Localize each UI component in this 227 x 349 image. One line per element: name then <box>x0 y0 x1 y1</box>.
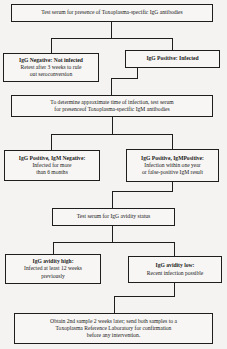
igg-pos-igm-neg-line: than 6 months <box>36 169 68 176</box>
igg-positive-heading: IgG Positive: Infected <box>146 55 198 62</box>
connector <box>112 226 113 242</box>
connector <box>172 38 173 50</box>
connector <box>174 242 175 256</box>
connector <box>114 296 115 313</box>
step-test-igg-text: Test serum for presence of Toxoplasma-sp… <box>41 9 183 16</box>
avidity-low-heading: IgG avidity low: <box>156 262 195 269</box>
connector <box>111 22 112 38</box>
connector <box>112 191 113 208</box>
step-test-igg-box: Test serum for presence of Toxoplasma-sp… <box>11 4 213 22</box>
final-step-line: before any intervention. <box>87 332 141 339</box>
connector <box>112 191 173 192</box>
connector <box>51 38 173 39</box>
igg-pos-igm-neg-heading: IgG Positive, IgM Negative: <box>19 155 86 162</box>
connector <box>172 182 173 191</box>
connector <box>53 242 54 254</box>
avidity-high-line: Infected at least 12 weeks <box>24 265 82 272</box>
final-step-line: Obtain 2nd sample 2 weeks later; send bo… <box>50 318 177 325</box>
connector <box>53 242 175 243</box>
step-avidity-text: Test serum for IgG avidity status <box>77 213 150 220</box>
connector <box>112 117 113 134</box>
final-step-box: Obtain 2nd sample 2 weeks later; send bo… <box>14 313 213 344</box>
connector <box>51 38 52 53</box>
igg-pos-igm-pos-line: or false-positive IgM result <box>142 169 203 176</box>
igg-positive-box: IgG Positive: Infected <box>125 50 220 68</box>
connector <box>51 134 52 150</box>
igg-pos-igm-pos-box: IgG Positive, IgMPositive: Infection wit… <box>126 149 219 182</box>
igg-negative-line: Retest after 3 weeks to rule <box>20 64 81 71</box>
connector <box>174 283 175 296</box>
avidity-high-line: previously <box>41 273 65 280</box>
step-test-igm-line: To determine approximate time of infecti… <box>50 99 173 106</box>
igg-negative-line: out seroconversion <box>30 71 72 78</box>
step-test-igm-line: for presenceof Toxoplasma-specific IgM a… <box>54 106 169 113</box>
igg-pos-igm-neg-line: Infected for more <box>32 162 71 169</box>
step-avidity-box: Test serum for IgG avidity status <box>52 208 175 226</box>
igg-negative-box: IgG Negative: Not infected Retest after … <box>3 53 99 82</box>
connector <box>137 68 138 78</box>
avidity-low-line: Recent infection possible <box>147 270 204 277</box>
step-test-igm-box: To determine approximate time of infecti… <box>11 95 213 117</box>
avidity-high-box: IgG avidity high: Infected at least 12 w… <box>5 254 101 284</box>
connector <box>172 134 173 149</box>
igg-pos-igm-pos-heading: IgG Positive, IgMPositive: <box>141 155 204 162</box>
igg-pos-igm-pos-line: Infection within one year <box>144 162 200 169</box>
igg-pos-igm-neg-box: IgG Positive, IgM Negative: Infected for… <box>4 150 100 181</box>
igg-negative-heading: IgG Negative: Not infected <box>19 57 83 64</box>
connector <box>111 78 112 95</box>
avidity-low-box: IgG avidity low: Recent infection possib… <box>128 256 222 283</box>
connector <box>114 296 175 297</box>
final-step-line: Toxoplasma Reference Laboratory for conf… <box>56 325 172 332</box>
avidity-high-heading: IgG avidity high: <box>32 258 73 265</box>
connector <box>111 78 138 79</box>
connector <box>51 134 173 135</box>
